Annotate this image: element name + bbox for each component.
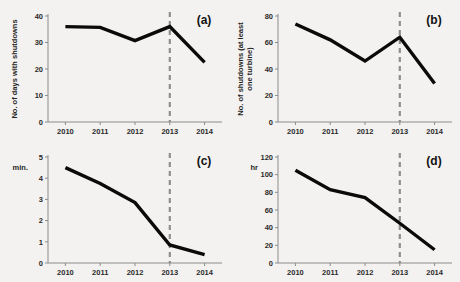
chart-panel-b: 02040608020102011201220132014No. of shut… <box>230 0 460 141</box>
y-tick-label-d-4: 80 <box>265 188 273 197</box>
chart-svg-d: 02040608010012020102011201220132014hr(d) <box>230 141 460 282</box>
series-line-b <box>295 24 434 84</box>
x-tick-label-d-1: 2011 <box>322 268 338 277</box>
x-tick-label-c-3: 2013 <box>161 268 178 277</box>
y-tick-label-c-3: 3 <box>39 195 43 204</box>
y-tick-label-d-3: 60 <box>265 206 273 215</box>
y-tick-label-d-2: 40 <box>265 223 273 232</box>
x-tick-label-c-1: 2011 <box>92 268 108 277</box>
x-tick-label-b-0: 2010 <box>287 127 304 136</box>
panel-letter-c: (c) <box>197 154 212 168</box>
x-tick-label-a-4: 2014 <box>196 127 214 136</box>
x-tick-label-a-0: 2010 <box>57 127 74 136</box>
y-axis-title-a: No. of days with shutdowns <box>10 19 19 118</box>
y-axis-title-line-a-0: No. of days with shutdowns <box>10 19 19 118</box>
chart-panel-c: 01234520102011201220132014min.(c) <box>0 141 230 282</box>
y-tick-label-d-5: 100 <box>260 170 273 179</box>
y-tick-label-c-1: 1 <box>39 238 43 247</box>
x-tick-label-d-4: 2014 <box>426 268 444 277</box>
y-tick-label-b-4: 80 <box>265 12 273 21</box>
y-tick-label-b-3: 60 <box>265 38 273 47</box>
x-tick-label-c-2: 2012 <box>127 268 144 277</box>
panel-letter-a: (a) <box>197 13 212 27</box>
x-tick-label-b-2: 2012 <box>357 127 374 136</box>
y-tick-label-c-2: 2 <box>39 216 43 225</box>
y-tick-label-d-0: 0 <box>269 259 273 268</box>
x-tick-label-b-3: 2013 <box>391 127 408 136</box>
x-tick-label-b-4: 2014 <box>426 127 444 136</box>
y-tick-label-a-0: 0 <box>39 118 43 127</box>
chart-svg-a: 01020304020102011201220132014No. of days… <box>0 0 230 141</box>
x-tick-label-d-0: 2010 <box>287 268 304 277</box>
chart-svg-c: 01234520102011201220132014min.(c) <box>0 141 230 282</box>
series-line-a <box>65 27 204 63</box>
y-tick-label-a-4: 40 <box>35 12 43 21</box>
y-tick-label-b-0: 0 <box>269 118 273 127</box>
x-tick-label-d-2: 2012 <box>357 268 374 277</box>
series-line-d <box>295 170 434 250</box>
y-tick-label-c-0: 0 <box>39 259 43 268</box>
y-tick-label-c-4: 4 <box>39 174 44 183</box>
x-tick-label-a-1: 2011 <box>92 127 108 136</box>
x-tick-label-b-1: 2011 <box>322 127 338 136</box>
y-tick-label-d-1: 20 <box>265 241 273 250</box>
y-tick-label-b-2: 40 <box>265 65 273 74</box>
y-axis-title-line-b-1: one turbine) <box>245 47 254 91</box>
chart-svg-b: 02040608020102011201220132014No. of shut… <box>230 0 460 141</box>
y-axis-title-line-b-0: No. of shutdowns (at least <box>236 22 245 116</box>
unit-label-c: min. <box>13 163 28 172</box>
y-tick-label-b-1: 20 <box>265 91 273 100</box>
chart-panel-a: 01020304020102011201220132014No. of days… <box>0 0 230 141</box>
y-tick-label-a-1: 10 <box>35 91 43 100</box>
panel-letter-d: (d) <box>426 154 441 168</box>
y-tick-label-a-2: 20 <box>35 65 43 74</box>
x-tick-label-a-2: 2012 <box>127 127 144 136</box>
series-line-c <box>65 168 204 255</box>
y-tick-label-c-5: 5 <box>39 153 43 162</box>
y-tick-label-d-6: 120 <box>260 153 273 162</box>
y-axis-title-b: No. of shutdowns (at leastone turbine) <box>236 22 254 116</box>
y-tick-label-a-3: 30 <box>35 38 43 47</box>
panel-letter-b: (b) <box>426 13 441 27</box>
figure-four-panel-line-charts: 01020304020102011201220132014No. of days… <box>0 0 460 282</box>
unit-label-d: hr <box>251 163 259 172</box>
x-tick-label-d-3: 2013 <box>391 268 408 277</box>
x-tick-label-c-0: 2010 <box>57 268 74 277</box>
x-tick-label-c-4: 2014 <box>196 268 214 277</box>
x-tick-label-a-3: 2013 <box>161 127 178 136</box>
chart-panel-d: 02040608010012020102011201220132014hr(d) <box>230 141 460 282</box>
